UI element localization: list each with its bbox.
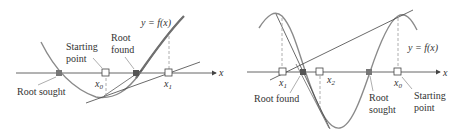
starting-point-label-line2: point <box>66 53 87 64</box>
curve-label: y = f(x) <box>140 17 172 29</box>
right-panel: x x1 x2 x0 y = f(x) Root found Root soug… <box>247 10 448 129</box>
root-sought-marker <box>366 69 372 75</box>
root-found-label: Root found <box>254 93 299 104</box>
x1-label: x1 <box>278 77 287 90</box>
root-sought-leader <box>370 76 373 91</box>
x-axis-label: x <box>218 67 224 78</box>
root-found-marker <box>133 70 139 76</box>
curve-label: y = f(x) <box>407 42 439 54</box>
root-sought-label: Root sought <box>17 86 66 97</box>
x0-marker <box>394 68 401 75</box>
starting-point-label-line1: Starting <box>414 90 446 101</box>
starting-point-leader <box>93 58 102 68</box>
x0-label: x0 <box>94 78 103 91</box>
left-panel: x x0 x1 y = f(x) Starting point Root fou… <box>16 16 224 103</box>
x1-marker <box>279 68 286 75</box>
starting-point-leader <box>402 77 412 89</box>
tangent-from-x0 <box>270 10 413 80</box>
root-found-label-line2: found <box>111 44 134 55</box>
root-sought-label-line1: Root <box>369 92 389 103</box>
root-sought-marker <box>56 70 62 76</box>
x1-label: x1 <box>163 78 172 91</box>
x2-label: x2 <box>326 74 335 87</box>
root-found-marker <box>300 69 306 75</box>
starting-point-label-line1: Starting <box>66 41 98 52</box>
x2-marker <box>316 68 323 75</box>
x0-label: x0 <box>393 77 402 90</box>
x-axis-label: x <box>442 67 448 78</box>
root-sought-label-line2: sought <box>369 104 396 115</box>
x0-marker <box>102 69 109 76</box>
newton-method-diagram: x x0 x1 y = f(x) Starting point Root fou… <box>0 0 461 139</box>
root-found-label-line1: Root <box>111 32 131 43</box>
starting-point-label-line2: point <box>414 102 435 113</box>
root-sought-leader <box>38 77 56 85</box>
root-found-leader <box>290 76 300 93</box>
x1-marker <box>165 69 172 76</box>
root-found-leader <box>125 57 134 69</box>
